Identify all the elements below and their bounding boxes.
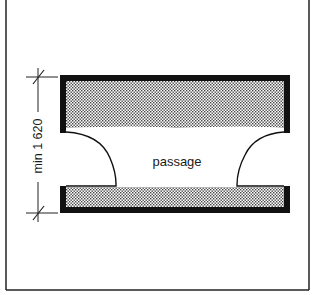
passage-label: passage [152, 154, 201, 169]
lower-wall-block [60, 186, 290, 213]
passage-plan-drawing: min 1 620 passage [0, 0, 316, 295]
diagram-canvas: min 1 620 passage [0, 0, 316, 295]
dimension-label: min 1 620 [31, 119, 45, 174]
